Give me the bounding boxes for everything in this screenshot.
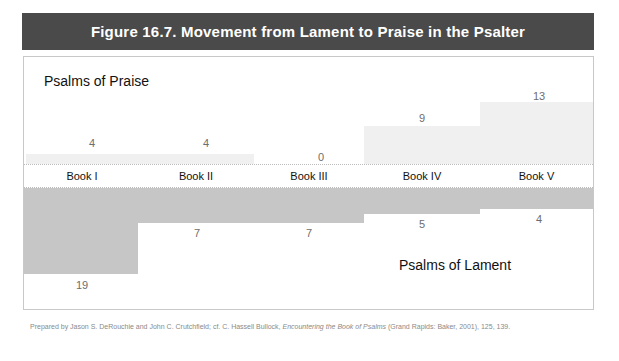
axis-label-book-iv: Book IV bbox=[364, 165, 480, 187]
footnote-text-start: Prepared by Jason S. DeRouchie and John … bbox=[30, 323, 283, 330]
chart-plot-area: Psalms of Praise 4 4 0 9 13 Book I Bo bbox=[24, 57, 593, 309]
praise-bar-book-v bbox=[480, 102, 593, 164]
lament-value-book-iii: 7 bbox=[299, 227, 319, 239]
praise-value-book-iv: 9 bbox=[412, 112, 432, 124]
footnote-text-end: (Grand Rapids: Baker, 2001), 125, 139. bbox=[386, 323, 510, 330]
figure-title-bar: Figure 16.7. Movement from Lament to Pra… bbox=[22, 13, 594, 50]
lament-value-book-iv: 5 bbox=[412, 218, 432, 230]
praise-value-book-ii: 4 bbox=[196, 137, 216, 149]
lament-bar-book-iv bbox=[364, 188, 480, 214]
lament-bars-group bbox=[24, 188, 593, 309]
praise-value-book-v: 13 bbox=[529, 90, 549, 102]
figure-title: Figure 16.7. Movement from Lament to Pra… bbox=[91, 23, 525, 40]
axis-label-book-i: Book I bbox=[26, 165, 138, 187]
figure-footnote: Prepared by Jason S. DeRouchie and John … bbox=[30, 322, 590, 331]
lament-section-label: Psalms of Lament bbox=[399, 257, 511, 273]
category-axis-band: Book I Book II Book III Book IV Book V bbox=[24, 164, 593, 188]
praise-bar-book-iv bbox=[364, 126, 480, 164]
lament-value-book-i: 19 bbox=[72, 279, 92, 291]
praise-bar-book-ii bbox=[138, 154, 254, 164]
praise-bar-book-i bbox=[26, 154, 138, 164]
lament-value-book-ii: 7 bbox=[187, 227, 207, 239]
axis-label-book-ii: Book II bbox=[138, 165, 254, 187]
lament-bar-book-i bbox=[24, 188, 138, 274]
lament-bar-book-ii bbox=[138, 188, 254, 223]
praise-bars-group bbox=[24, 57, 593, 164]
figure-container: Figure 16.7. Movement from Lament to Pra… bbox=[0, 0, 619, 361]
praise-value-book-iii: 0 bbox=[311, 151, 331, 163]
lament-bar-book-v bbox=[480, 188, 593, 209]
praise-value-book-i: 4 bbox=[82, 137, 102, 149]
lament-bar-book-iii bbox=[254, 188, 364, 223]
lament-value-book-v: 4 bbox=[529, 213, 549, 225]
footnote-book-title: Encountering the Book of Psalms bbox=[283, 323, 387, 330]
axis-label-book-v: Book V bbox=[480, 165, 593, 187]
figure-panel: Psalms of Praise 4 4 0 9 13 Book I Bo bbox=[23, 56, 594, 310]
axis-label-book-iii: Book III bbox=[254, 165, 364, 187]
